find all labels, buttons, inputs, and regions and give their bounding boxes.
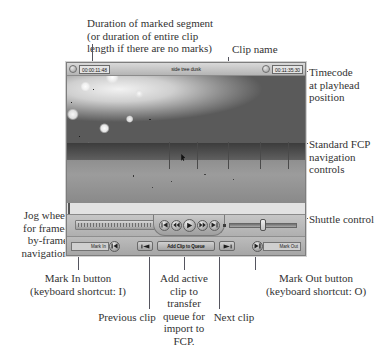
go-to-out-point-button[interactable] xyxy=(209,220,220,231)
shuttle-handle[interactable] xyxy=(260,219,266,231)
rewind-icon xyxy=(173,222,180,228)
add-clip-to-queue-button[interactable]: Add Clip to Queue xyxy=(157,241,215,251)
skip-to-start-icon xyxy=(161,222,168,228)
jog-wheel[interactable] xyxy=(75,220,155,230)
mark-in-icon xyxy=(111,243,118,249)
step-forward-button[interactable] xyxy=(197,220,208,231)
next-clip-button[interactable] xyxy=(219,241,235,251)
previous-clip-icon xyxy=(141,244,150,249)
leader-line-add-active-clip xyxy=(184,256,185,270)
step-back-button[interactable] xyxy=(171,220,182,231)
playhead-timecode-field[interactable]: 00:11:35:30 xyxy=(272,65,303,74)
mark-and-queue-bar: Mark In Add Clip to Queue xyxy=(67,236,305,255)
annotation-mark-in: Mark In button (keyboard shortcut: I) xyxy=(8,272,148,297)
video-preview-canvas[interactable] xyxy=(67,76,305,202)
leader-line-mark-out xyxy=(255,256,256,270)
scrubber-playhead[interactable] xyxy=(68,203,70,214)
next-clip-icon xyxy=(223,244,232,249)
in-point-knob-icon[interactable] xyxy=(69,65,77,73)
mark-in-button[interactable] xyxy=(109,241,120,252)
skip-to-end-icon xyxy=(211,222,218,228)
previous-clip-button[interactable] xyxy=(137,241,153,251)
annotation-clip-name: Clip name xyxy=(232,43,302,56)
leader-line-mark-in xyxy=(78,256,79,270)
fast-forward-icon xyxy=(199,222,206,228)
scrubber-bar[interactable] xyxy=(67,202,305,215)
fcp-navigation-controls xyxy=(153,215,225,236)
annotation-mark-out: Mark Out button (keyboard shortcut: O) xyxy=(246,272,386,297)
play-icon xyxy=(186,222,193,229)
leader-line-duration xyxy=(92,44,93,63)
leader-line-previous-clip xyxy=(149,256,150,309)
annotation-add-active-clip: Add active clip to transfer queue for im… xyxy=(160,272,208,347)
window-title-bar: 00:00:11:48 side tree dusk 00:11:35:30 xyxy=(67,63,305,76)
annotation-jog-wheel: Jog wheel for frame- by-frame navigation xyxy=(2,209,68,259)
shuttle-end-marker-icon xyxy=(223,224,226,227)
mark-out-timecode-field[interactable]: Mark Out xyxy=(263,242,301,251)
shuttle-control[interactable] xyxy=(223,220,297,230)
video-fence-posts-layer xyxy=(157,142,300,170)
transport-controls-row xyxy=(67,215,305,237)
clip-preview-window: 00:00:11:48 side tree dusk 00:11:35:30 xyxy=(66,62,306,256)
go-to-in-point-button[interactable] xyxy=(159,220,170,231)
annotation-next-clip: Next clip xyxy=(212,311,256,324)
annotation-timecode: Timecode at playhead position xyxy=(309,66,387,104)
mark-in-timecode-field[interactable]: Mark In xyxy=(71,242,109,251)
duration-timecode-field[interactable]: 00:00:11:48 xyxy=(79,65,110,74)
play-button[interactable] xyxy=(183,219,196,232)
mark-out-button[interactable] xyxy=(252,241,263,252)
leader-line-next-clip xyxy=(219,256,220,309)
clip-name-label: side tree dusk xyxy=(110,66,262,72)
mark-out-icon xyxy=(254,243,261,249)
annotation-shuttle: Shuttle control xyxy=(309,213,389,226)
annotation-fcp-nav: Standard FCP navigation controls xyxy=(309,138,389,176)
out-point-knob-icon[interactable] xyxy=(262,65,270,73)
annotation-previous-clip: Previous clip xyxy=(96,311,158,324)
